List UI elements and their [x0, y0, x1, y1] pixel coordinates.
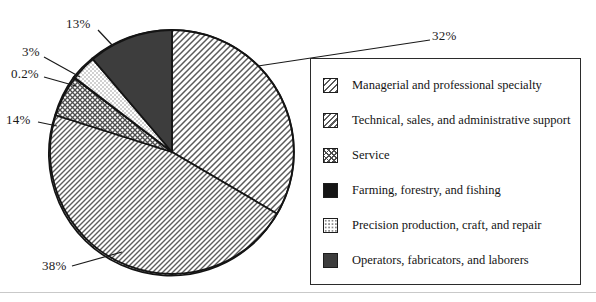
footer-divider: [0, 292, 596, 293]
legend-swatch-diagonal-hatch-dense-icon: [323, 113, 338, 128]
slice-value-label-farming: 0.2%: [11, 66, 39, 82]
pie-slices: [49, 30, 294, 276]
legend-item-managerial[interactable]: Managerial and professional specialty: [323, 68, 580, 103]
legend-items: Managerial and professional specialty Te…: [311, 59, 580, 284]
legend-item-farming[interactable]: Farming, forestry, and fishing: [323, 173, 580, 208]
leader-line-3: [44, 57, 80, 77]
slice-value-label-precision: 3%: [22, 44, 40, 60]
legend-item-precision[interactable]: Precision production, craft, and repair: [323, 208, 580, 243]
legend-swatch-dotted-icon: [323, 218, 338, 233]
legend-swatch-crosshatch-icon: [323, 148, 338, 163]
legend-label: Managerial and professional specialty: [352, 79, 542, 92]
legend-label: Technical, sales, and administrative sup…: [352, 114, 571, 127]
legend-label: Farming, forestry, and fishing: [352, 184, 501, 197]
legend-item-technical[interactable]: Technical, sales, and administrative sup…: [323, 103, 580, 138]
legend-item-operators[interactable]: Operators, fabricators, and laborers: [323, 243, 580, 278]
legend-label: Precision production, craft, and repair: [352, 219, 542, 232]
legend: Managerial and professional specialty Te…: [310, 58, 581, 285]
slice-value-label-technical: 38%: [42, 258, 66, 274]
legend-swatch-solid-black-icon: [323, 183, 338, 198]
slice-value-label-managerial: 32%: [432, 28, 456, 44]
legend-swatch-diagonal-hatch-icon: [323, 78, 338, 93]
legend-label: Operators, fabricators, and laborers: [352, 254, 529, 267]
pie-chart-figure: 32% 38% 14% 0.2% 3% 13% Managerial and p…: [0, 0, 596, 302]
legend-swatch-solid-dark-gray-icon: [323, 253, 338, 268]
leader-line-13: [98, 30, 113, 46]
slice-value-label-operators: 13%: [66, 16, 90, 32]
legend-label: Service: [352, 149, 389, 162]
slice-value-label-service: 14%: [6, 112, 30, 128]
legend-item-service[interactable]: Service: [323, 138, 580, 173]
